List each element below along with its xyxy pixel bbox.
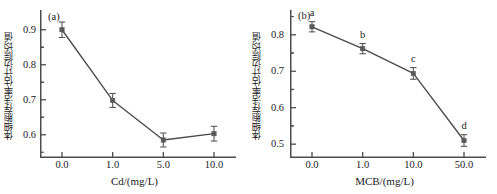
significance-letter: c <box>411 54 416 65</box>
x-tick-label: 0.0 <box>305 160 318 171</box>
x-tick-label: 1.0 <box>106 160 119 171</box>
y-axis-tick-labels-a: 0.90.80.70.6 <box>14 0 38 172</box>
figure-container: 体细胞存活率估计边际均值 0.90.80.70.6 (a) 0.01.05.01… <box>0 0 497 194</box>
plot-svg-a <box>40 10 236 158</box>
x-tick-label: 5.0 <box>157 160 170 171</box>
x-tick-label: 10.0 <box>404 160 422 171</box>
y-tick-label: 0.6 <box>271 102 284 113</box>
x-tick-label: 1.0 <box>356 160 369 171</box>
x-axis-label-b: MCB/(mg/L) <box>260 175 497 187</box>
significance-letter: a <box>310 8 315 19</box>
y-tick-label: 0.7 <box>23 95 36 106</box>
panel-tag-a: (a) <box>48 12 60 23</box>
plot-area-a <box>40 10 236 158</box>
x-tick-label: 10.0 <box>205 160 223 171</box>
y-tick-label: 0.9 <box>23 25 36 36</box>
y-axis-tick-labels-b: 0.80.70.60.5 <box>262 0 286 172</box>
y-tick-label: 0.8 <box>271 30 284 41</box>
plot-svg-b <box>290 10 486 158</box>
x-axis-label-a: Cd/(mg/L) <box>10 175 259 187</box>
chart-panel-a: 体细胞存活率估计边际均值 0.90.80.70.6 (a) 0.01.05.01… <box>0 0 249 194</box>
x-tick-label: 0.0 <box>55 160 68 171</box>
x-tick-label: 50.0 <box>455 160 473 171</box>
y-tick-label: 0.5 <box>271 139 284 150</box>
chart-panel-b: 体细胞存活率估计边际均值 0.80.70.60.5 abcd (b) 0.01.… <box>248 0 497 194</box>
x-axis-tick-labels-a: 0.01.05.010.0 <box>40 160 236 176</box>
significance-letter: d <box>461 121 466 132</box>
significance-letter: b <box>360 30 365 41</box>
y-tick-label: 0.6 <box>23 130 36 141</box>
panel-tag-b: (b) <box>298 11 310 22</box>
y-tick-label: 0.7 <box>271 66 284 77</box>
x-axis-tick-labels-b: 0.01.010.050.0 <box>290 160 486 176</box>
y-tick-label: 0.8 <box>23 60 36 71</box>
plot-area-b: abcd <box>290 10 486 158</box>
